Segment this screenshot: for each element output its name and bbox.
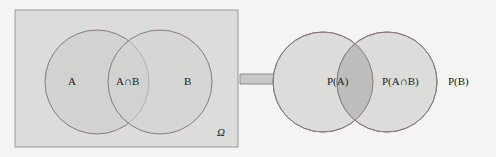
label-a-intersect-b: A∩B [116, 75, 139, 87]
label-a: A [68, 75, 76, 87]
label-universe-omega: Ω [217, 126, 225, 138]
label-prob-a: P(A) [327, 75, 349, 88]
probability-venn-diagram: A A∩B B Ω P(A) P(A∩B) P(B) [0, 0, 496, 157]
label-prob-a-intersect-b: P(A∩B) [382, 75, 419, 88]
label-b: B [184, 75, 191, 87]
label-prob-b: P(B) [448, 75, 469, 88]
